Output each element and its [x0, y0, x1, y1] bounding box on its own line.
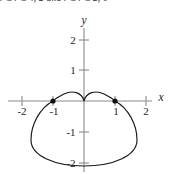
- figure-screenshot: r ≤ r ≤ 4, 2 and r ≤ r ≤ 2, 0 -2: [0, 0, 170, 174]
- x-tick-label-neg1: -1: [49, 105, 58, 117]
- marked-point-neg1: [50, 98, 55, 103]
- marked-point-pos1: [112, 98, 117, 103]
- y-tick-label-neg1: -1: [66, 126, 75, 138]
- x-tick-label-pos1: 1: [113, 105, 119, 117]
- plot-svg: -2 -1 1 2 2 1 -1 -2 x y: [0, 0, 170, 174]
- x-tick-label-pos2: 2: [143, 105, 149, 117]
- y-axis-label: y: [80, 14, 87, 27]
- polar-cardioid-plot: -2 -1 1 2 2 1 -1 -2 x y: [0, 0, 170, 174]
- y-tick-label-pos2: 2: [70, 34, 76, 46]
- x-axis-label: x: [157, 91, 164, 103]
- y-tick-label-pos1: 1: [70, 64, 76, 76]
- y-tick-label-neg2: -2: [66, 157, 75, 169]
- x-tick-label-neg2: -2: [17, 105, 26, 117]
